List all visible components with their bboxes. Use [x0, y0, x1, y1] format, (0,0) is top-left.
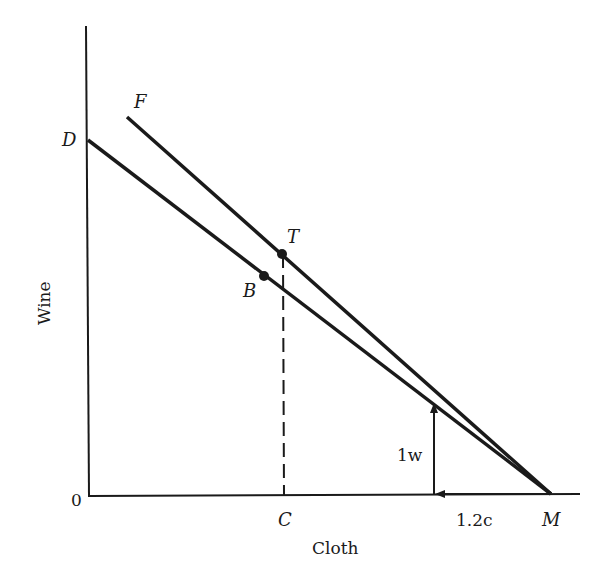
label-origin: 0: [71, 490, 82, 510]
label-m: M: [541, 509, 561, 530]
trade-diagram: D F T B 1w 0 C 1.2c M Cloth Wine: [0, 0, 609, 584]
label-f: F: [133, 91, 148, 112]
label-d: D: [61, 129, 77, 150]
label-1w: 1w: [397, 445, 423, 465]
label-b: B: [242, 280, 256, 301]
label-c: C: [278, 509, 292, 530]
label-t: T: [287, 226, 301, 247]
x-axis-label: Cloth: [312, 538, 359, 558]
point-b: [259, 271, 269, 281]
line-fm: [127, 117, 551, 494]
point-t: [277, 249, 287, 259]
y-axis-label: Wine: [34, 281, 54, 325]
y-axis: [86, 26, 89, 497]
label-1-2c: 1.2c: [456, 510, 493, 530]
line-dm: [88, 140, 551, 494]
